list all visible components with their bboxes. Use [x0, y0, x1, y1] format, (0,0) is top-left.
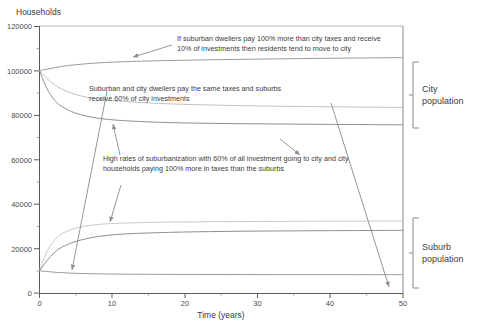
- leader-same-taxes-to-suburb: [72, 91, 107, 270]
- x-tick-labels: 0 10 20 30 40 50: [37, 299, 407, 308]
- y-tick-label-100000: 100000: [7, 67, 32, 76]
- annotation-same-taxes: Suburban and city dwellers pay the same …: [89, 84, 282, 103]
- city-population-label-line-2: population: [422, 96, 464, 106]
- annotation-move-to-city-line-2: 10% of investments then residents tend t…: [177, 44, 352, 53]
- annotation-same-taxes-line-2: receive 60% of city investments: [89, 94, 190, 103]
- y-tick-labels: 120000 100000 80000 60000 40000 20000 0: [7, 22, 32, 298]
- x-tick-label-50: 50: [399, 299, 407, 308]
- x-tick-label-20: 20: [181, 299, 189, 308]
- suburb-population-label-line-2: population: [422, 254, 464, 264]
- x-axis-title: Time (years): [197, 310, 245, 320]
- x-tick-label-0: 0: [37, 299, 41, 308]
- suburb-bracket-shape: [413, 218, 419, 288]
- y-axis-major-ticks: [34, 27, 40, 294]
- x-tick-label-40: 40: [326, 299, 334, 308]
- leader-high-sub-to-city: [113, 124, 120, 155]
- y-tick-label-60000: 60000: [11, 156, 32, 165]
- y-tick-label-80000: 80000: [11, 111, 32, 120]
- x-tick-label-30: 30: [253, 299, 261, 308]
- leader-high-sub-to-midcurve: [280, 139, 300, 155]
- chart-figure: 120000 100000 80000 60000 40000 20000 0 …: [0, 0, 477, 323]
- y-tick-label-120000: 120000: [7, 22, 32, 31]
- leader-move-to-city: [133, 45, 172, 57]
- annotation-same-taxes-line-1: Suburban and city dwellers pay the same …: [89, 84, 282, 93]
- x-axis-ticks: [40, 294, 404, 299]
- chart-canvas: 120000 100000 80000 60000 40000 20000 0 …: [0, 0, 477, 323]
- annotation-move-to-city-line-1: If suburban dwellers pay 100% more than …: [177, 34, 381, 43]
- y-tick-label-40000: 40000: [11, 200, 32, 209]
- leader-high-sub-to-suburb: [110, 185, 121, 222]
- series-line-suburb-scenario-2-equal-taxes-60pct-suburb-investment: [40, 221, 404, 271]
- y-tick-label-20000: 20000: [11, 245, 32, 254]
- annotation-move-to-city: If suburban dwellers pay 100% more than …: [177, 34, 381, 53]
- annotation-high-sub-line-1: High rates of suburbanization with 60% o…: [103, 154, 349, 163]
- series-line-city-scenario-1-low-sub-investment: [40, 58, 404, 71]
- y-tick-label-0: 0: [28, 289, 32, 298]
- suburb-population-label-line-1: Suburb: [422, 242, 451, 252]
- annotation-high-sub-line-2: households paying 100% more in taxes tha…: [103, 164, 284, 173]
- series-line-suburb-scenario-3-high-suburbanization: [40, 230, 404, 271]
- leader-same-taxes-to-right: [331, 103, 389, 287]
- x-tick-label-10: 10: [108, 299, 116, 308]
- y-axis-title: Households: [16, 7, 61, 17]
- city-population-bracket: City population: [409, 62, 464, 128]
- city-bracket-shape: [413, 62, 419, 128]
- city-population-label-line-1: City: [422, 84, 438, 94]
- series-line-suburb-scenario-1-low-sub-investment: [40, 271, 404, 275]
- annotation-high-suburbanization: High rates of suburbanization with 60% o…: [103, 154, 349, 173]
- suburb-population-bracket: Suburb population: [409, 218, 464, 288]
